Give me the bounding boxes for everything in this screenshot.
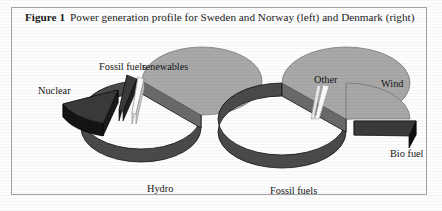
pie-label-hydro: Hydro bbox=[147, 183, 173, 194]
figure-container: Figure 1Power generation profile for Swe… bbox=[0, 0, 442, 211]
pie-label-bio-fuel: Bio fuel bbox=[390, 148, 423, 159]
pie-label-wind: Wind bbox=[381, 78, 403, 89]
pie-slice-nuclear bbox=[63, 90, 118, 136]
pie-slice-bio-fuel bbox=[354, 121, 416, 148]
pie-label-other: Other bbox=[314, 74, 337, 85]
pie-label-fossil-fuels-left: Fossil fuels bbox=[99, 61, 146, 72]
pie-charts-svg bbox=[11, 7, 427, 195]
charts-area: Nuclear Fossil fuels renewables Hydro Ot… bbox=[11, 7, 427, 195]
pie-label-nuclear: Nuclear bbox=[38, 85, 71, 96]
pie-label-renewables: renewables bbox=[142, 61, 188, 72]
pie-label-fossil-fuels-right: Fossil fuels bbox=[270, 185, 317, 196]
